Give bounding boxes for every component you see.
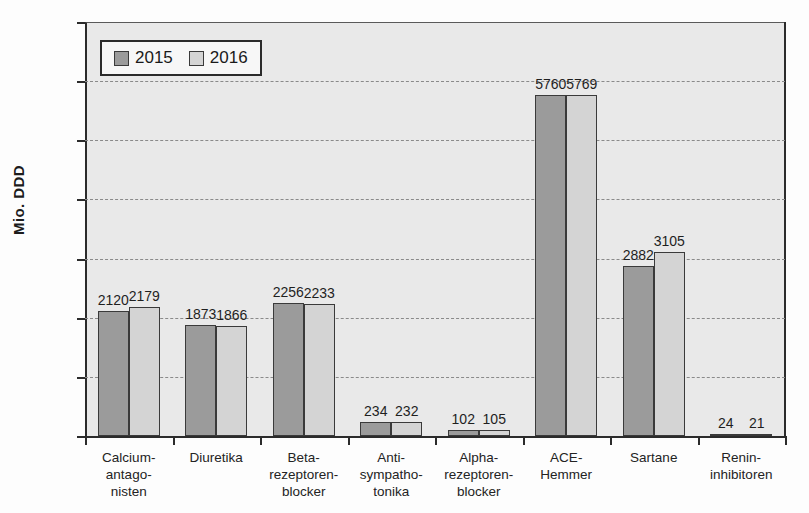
x-tick-mark xyxy=(260,436,262,445)
value-label-2016-0: 2179 xyxy=(129,288,160,304)
x-tick-mark xyxy=(785,436,787,445)
gridline xyxy=(85,140,785,141)
bar-2016-7 xyxy=(741,434,772,436)
category-label-line: Diuretika xyxy=(190,449,243,466)
legend-item-2015: 2015 xyxy=(114,48,173,68)
category-label-line: Sartane xyxy=(630,449,677,466)
y-tick-mark xyxy=(77,377,85,379)
category-label-line: inhibitoren xyxy=(710,466,772,483)
legend-label-2016: 2016 xyxy=(210,48,248,68)
category-label-line: ACE- xyxy=(540,449,592,466)
gridline xyxy=(85,199,785,200)
legend-item-2016: 2016 xyxy=(189,48,248,68)
category-label-line: rezeptoren- xyxy=(269,466,338,483)
value-label-2015-5: 5760 xyxy=(535,76,566,92)
y-tick-mark xyxy=(77,140,85,142)
value-label-2016-5: 5769 xyxy=(566,76,597,92)
gridline xyxy=(85,81,785,82)
bar-2015-1 xyxy=(185,325,216,436)
value-label-2015-1: 1873 xyxy=(185,306,216,322)
plot-right-border xyxy=(784,22,786,438)
legend: 2015 2016 xyxy=(100,40,262,76)
category-label-line: Beta- xyxy=(269,449,338,466)
category-label-line: blocker xyxy=(269,483,338,500)
bar-2016-1 xyxy=(216,326,247,436)
category-label-line: tonika xyxy=(360,483,423,500)
category-label-line: Anti- xyxy=(360,449,423,466)
category-label-line: rezeptoren- xyxy=(444,466,513,483)
bar-2016-4 xyxy=(479,430,510,436)
category-label-1: Diuretika xyxy=(190,449,243,466)
x-tick-mark xyxy=(523,436,525,445)
value-label-2015-3: 234 xyxy=(364,403,387,419)
bar-2016-5 xyxy=(566,95,597,436)
category-label-line: antago- xyxy=(102,466,155,483)
bar-2016-0 xyxy=(129,307,160,436)
bar-2016-2 xyxy=(304,304,335,436)
value-label-2015-0: 2120 xyxy=(98,292,129,308)
category-label-4: Alpha-rezeptoren-blocker xyxy=(444,449,513,500)
legend-label-2015: 2015 xyxy=(135,48,173,68)
category-label-line: sympatho- xyxy=(360,466,423,483)
bar-2015-6 xyxy=(623,266,654,436)
x-tick-mark xyxy=(85,436,87,445)
value-label-2016-4: 105 xyxy=(483,411,506,427)
y-tick-mark xyxy=(77,199,85,201)
value-label-2016-1: 1866 xyxy=(216,307,247,323)
bar-2015-0 xyxy=(98,311,129,436)
y-tick-mark xyxy=(77,259,85,261)
value-label-2015-2: 2256 xyxy=(273,284,304,300)
category-label-line: Renin- xyxy=(710,449,772,466)
x-tick-mark xyxy=(610,436,612,445)
bar-2016-6 xyxy=(654,252,685,436)
x-tick-mark xyxy=(698,436,700,445)
value-label-2016-2: 2233 xyxy=(304,285,335,301)
legend-swatch-icon-2015 xyxy=(114,51,129,66)
bar-2015-7 xyxy=(710,434,741,436)
x-tick-mark xyxy=(435,436,437,445)
x-tick-mark xyxy=(348,436,350,445)
category-label-line: blocker xyxy=(444,483,513,500)
category-label-line: Calcium- xyxy=(102,449,155,466)
y-tick-mark xyxy=(77,436,85,438)
category-label-0: Calcium-antago-nisten xyxy=(102,449,155,500)
bar-chart: Mio. DDD 70006000500040003000200010000 2… xyxy=(0,0,809,513)
value-label-2015-6: 2882 xyxy=(623,247,654,263)
category-label-7: Renin-inhibitoren xyxy=(710,449,772,483)
bar-2015-5 xyxy=(535,95,566,436)
category-label-3: Anti-sympatho-tonika xyxy=(360,449,423,500)
y-tick-mark xyxy=(77,81,85,83)
bar-2015-2 xyxy=(273,303,304,436)
value-label-2015-7: 24 xyxy=(718,415,734,431)
y-tick-mark xyxy=(77,318,85,320)
value-label-2015-4: 102 xyxy=(452,411,475,427)
bar-2016-3 xyxy=(391,422,422,436)
y-axis-title: Mio. DDD xyxy=(10,95,27,235)
category-label-line: nisten xyxy=(102,483,155,500)
bar-2015-4 xyxy=(448,430,479,436)
y-tick-mark xyxy=(77,22,85,24)
bar-2015-3 xyxy=(360,422,391,436)
legend-swatch-icon-2016 xyxy=(189,51,204,66)
category-label-6: Sartane xyxy=(630,449,677,466)
category-label-line: Hemmer xyxy=(540,466,592,483)
x-tick-mark xyxy=(173,436,175,445)
category-label-5: ACE-Hemmer xyxy=(540,449,592,483)
category-label-2: Beta-rezeptoren-blocker xyxy=(269,449,338,500)
value-label-2016-7: 21 xyxy=(749,415,765,431)
value-label-2016-6: 3105 xyxy=(654,233,685,249)
value-label-2016-3: 232 xyxy=(395,403,418,419)
category-label-line: Alpha- xyxy=(444,449,513,466)
